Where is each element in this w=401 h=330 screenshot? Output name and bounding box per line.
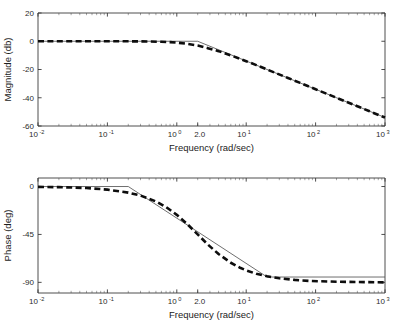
xtick-label-exponent: 2 (317, 296, 320, 302)
magnitude-actual-curve (38, 41, 385, 117)
phase-asymptote-curve (38, 187, 385, 278)
phase-plot-svg: 0-45-90 10-210-11001011021032.0 Frequenc… (0, 165, 401, 330)
phase-yaxis-title: Phase (deg) (2, 210, 13, 262)
bode-plot-figure: 200-20-40-60 10-210-11001011021032.0 Fre… (0, 0, 401, 330)
xtick-label-base: 10 (376, 130, 385, 139)
xtick-label-corner-frequency: 2.0 (194, 297, 206, 306)
phase-xtick-labels: 10-210-11001011021032.0 (29, 296, 390, 306)
xtick-label-exponent: 1 (248, 296, 251, 302)
magnitude-major-ticks (38, 13, 385, 126)
magnitude-yaxis-title: Magnitude (db) (2, 38, 13, 102)
xtick-label-base: 10 (29, 130, 38, 139)
ytick-label: 20 (25, 9, 34, 18)
xtick-label-exponent: -2 (40, 129, 45, 135)
magnitude-ytick-labels: 200-20-40-60 (22, 9, 34, 131)
xtick-label-base: 10 (168, 130, 177, 139)
ytick-label: -40 (22, 94, 34, 103)
ytick-label: 0 (30, 182, 35, 191)
xtick-label-exponent: -2 (40, 296, 45, 302)
magnitude-xtick-labels: 10-210-11001011021032.0 (29, 129, 390, 139)
xtick-label-base: 10 (168, 297, 177, 306)
xtick-label-exponent: 0 (178, 296, 181, 302)
xtick-label-base: 10 (29, 297, 38, 306)
xtick-label-exponent: -1 (109, 129, 114, 135)
xtick-label-base: 10 (307, 130, 316, 139)
xtick-label-exponent: 2 (317, 129, 320, 135)
phase-minor-ticks (59, 178, 382, 293)
xtick-label-exponent: 3 (387, 296, 390, 302)
magnitude-asymptote-curve (38, 41, 385, 117)
xtick-label-corner-frequency: 2.0 (194, 130, 206, 139)
phase-actual-curve (38, 187, 385, 283)
xtick-label-base: 10 (98, 297, 107, 306)
xtick-label-base: 10 (98, 130, 107, 139)
ytick-label: -20 (22, 65, 34, 74)
xtick-label-base: 10 (237, 130, 246, 139)
xtick-label-exponent: -1 (109, 296, 114, 302)
ytick-label: -45 (22, 230, 34, 239)
magnitude-plot-panel: 200-20-40-60 10-210-11001011021032.0 Fre… (0, 0, 401, 165)
xtick-label-exponent: 3 (387, 129, 390, 135)
phase-ytick-labels: 0-45-90 (22, 182, 34, 287)
magnitude-axis-box (38, 13, 385, 126)
phase-xaxis-title: Frequency (rad/sec) (169, 309, 254, 320)
ytick-label: -90 (22, 278, 34, 287)
magnitude-minor-ticks (59, 13, 382, 126)
ytick-label: 0 (30, 37, 35, 46)
magnitude-xaxis-title: Frequency (rad/sec) (169, 142, 254, 153)
xtick-label-base: 10 (307, 297, 316, 306)
phase-axis-box (38, 178, 385, 293)
magnitude-plot-svg: 200-20-40-60 10-210-11001011021032.0 Fre… (0, 0, 401, 165)
phase-plot-panel: 0-45-90 10-210-11001011021032.0 Frequenc… (0, 165, 401, 330)
xtick-label-base: 10 (237, 297, 246, 306)
xtick-label-exponent: 1 (248, 129, 251, 135)
phase-major-ticks (38, 178, 385, 293)
xtick-label-exponent: 0 (178, 129, 181, 135)
xtick-label-base: 10 (376, 297, 385, 306)
